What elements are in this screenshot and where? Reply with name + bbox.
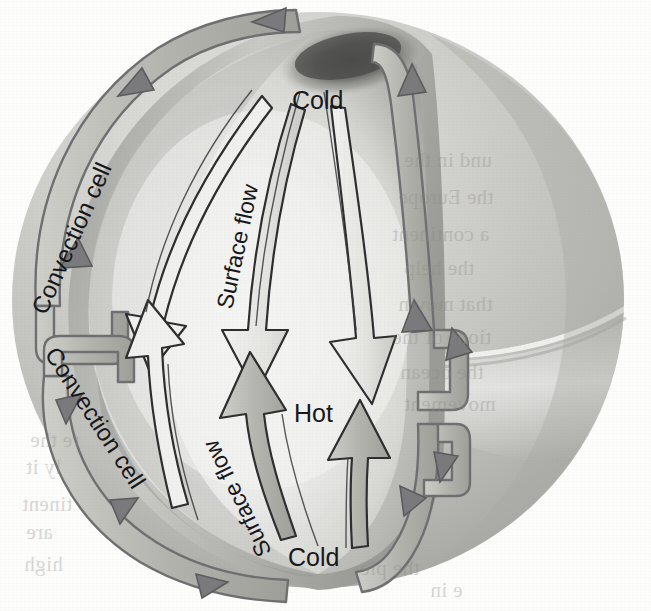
label-cold-top: Cold [292,86,343,114]
convection-diagram-figure: Cold Hot Cold Surface flow Surface flow … [0,0,651,611]
label-cold-bottom: Cold [288,543,339,571]
label-hot: Hot [294,399,333,427]
diagram-canvas: Cold Hot Cold Surface flow Surface flow … [0,0,651,611]
